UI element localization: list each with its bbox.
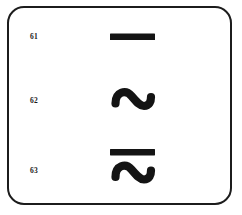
direct-current-symbol: [110, 17, 172, 57]
figure-frame: 61 62 63: [7, 6, 232, 205]
figure-canvas: 61 62 63: [0, 0, 242, 215]
reference-number-62: 62: [30, 97, 38, 105]
alternating-and-direct-current-symbol: [110, 145, 172, 197]
reference-number-63: 63: [30, 167, 38, 175]
reference-number-61: 61: [30, 33, 38, 41]
alternating-current-symbol: [110, 79, 172, 123]
